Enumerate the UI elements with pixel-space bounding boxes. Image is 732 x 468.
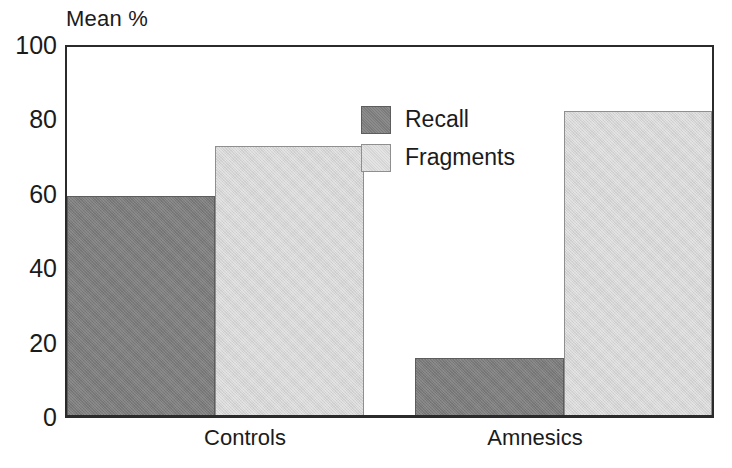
plot-area: Recall Fragments — [65, 45, 714, 418]
legend-swatch-recall-icon — [361, 106, 391, 134]
bar-chart-figure: Mean % 100 80 60 40 20 0 Recall Fragment… — [0, 0, 732, 468]
y-tick-0: 0 — [2, 405, 57, 430]
bar-amnesics-recall — [415, 358, 563, 415]
legend-label-fragments: Fragments — [405, 146, 515, 169]
legend-entry-recall: Recall — [361, 105, 515, 134]
y-tick-40: 40 — [2, 256, 57, 281]
chart-legend: Recall Fragments — [361, 105, 515, 181]
bar-amnesics-fragments — [564, 111, 712, 415]
y-axis-title: Mean % — [66, 6, 148, 32]
y-axis-tick-labels: 100 80 60 40 20 0 — [0, 0, 57, 468]
y-tick-60: 60 — [2, 182, 57, 207]
legend-entry-fragments: Fragments — [361, 143, 515, 172]
y-tick-80: 80 — [2, 107, 57, 132]
legend-swatch-fragments-icon — [361, 144, 391, 172]
bar-controls-fragments — [215, 146, 363, 415]
bar-controls-recall — [67, 196, 215, 415]
x-tick-amnesics: Amnesics — [385, 427, 685, 449]
y-tick-20: 20 — [2, 331, 57, 356]
y-tick-100: 100 — [2, 33, 57, 58]
bars-layer — [67, 47, 712, 415]
x-axis-tick-labels: Controls Amnesics — [65, 427, 714, 461]
x-tick-controls: Controls — [95, 427, 395, 449]
legend-label-recall: Recall — [405, 108, 469, 131]
